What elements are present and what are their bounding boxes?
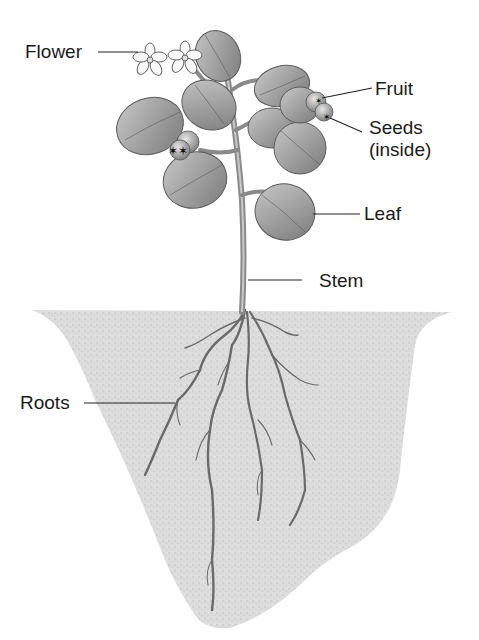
label-roots: Roots (20, 392, 70, 414)
svg-text:✶: ✶ (315, 96, 323, 106)
label-stem: Stem (319, 270, 363, 292)
label-fruit: Fruit (375, 78, 413, 100)
flowers (133, 41, 202, 77)
label-leaf: Leaf (364, 203, 401, 225)
svg-text:✶✶: ✶✶ (168, 144, 188, 158)
label-seeds: Seeds (369, 117, 423, 139)
label-flower: Flower (25, 41, 82, 63)
soil (32, 310, 452, 628)
svg-text:✶: ✶ (323, 112, 331, 122)
label-seeds-inside: (inside) (369, 139, 431, 161)
